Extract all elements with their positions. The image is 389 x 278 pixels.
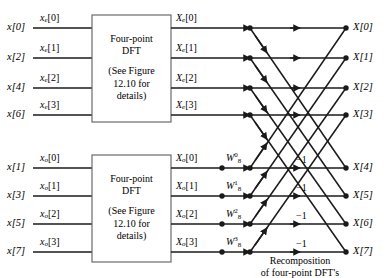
output-label-X2: X[2] (353, 82, 373, 93)
twiddle-label-0: W08 (226, 152, 241, 165)
recomposition-caption: Recomposition of four-point DFT's (234, 255, 366, 278)
output-label-X6: X[6] (353, 218, 373, 229)
odd-seq-label-1: xo[1] (40, 181, 60, 192)
even-dft-output-label-3: Xe[3] (176, 100, 197, 111)
twiddle-label-2: W28 (226, 208, 241, 221)
even-seq-label-1: xe[1] (40, 43, 59, 54)
output-label-X5: X[5] (353, 190, 373, 201)
even-dft-output-label-2: Xe[2] (176, 73, 197, 84)
odd-seq-label-0: xo[0] (40, 153, 60, 164)
twiddle-nodes (219, 165, 224, 254)
box-odd-line2: DFT (92, 185, 171, 197)
odd-dft-output-label-3: Xo[3] (176, 237, 197, 248)
even-dft-output-label-1: Xe[1] (176, 43, 197, 54)
box-even-line4: 12.10 for (92, 78, 171, 90)
box-even-line5: details) (92, 90, 171, 102)
odd-dft-output-label-0: Xo[0] (176, 153, 197, 164)
input-label-x7: x[7] (7, 246, 25, 257)
box-odd-line1: Four-point (92, 173, 171, 185)
input-label-x3: x[3] (7, 190, 25, 201)
odd-seq-label-3: xo[3] (40, 237, 60, 248)
even-dft-output-label-0: Xe[0] (176, 13, 197, 24)
output-label-X1: X[1] (353, 52, 373, 63)
odd-dft-output-label-2: Xo[2] (176, 209, 197, 220)
input-label-x0: x[0] (7, 22, 25, 33)
box-odd-line4: 12.10 for (92, 218, 171, 230)
twiddle-label-3: W38 (226, 236, 241, 249)
caption-line1: Recomposition (234, 255, 366, 267)
even-seq-label-0: xe[0] (40, 13, 59, 24)
minus-one-label-2: −1 (296, 211, 307, 221)
box-even-line3: (See Figure (92, 65, 171, 77)
output-label-X4: X[4] (353, 162, 373, 173)
input-label-x1: x[1] (7, 162, 25, 173)
input-label-x6: x[6] (7, 109, 25, 120)
odd-dft-output-label-1: Xo[1] (176, 181, 197, 192)
output-label-X0: X[0] (353, 22, 373, 33)
minus-one-label-0: −1 (296, 155, 307, 165)
input-label-x4: x[4] (7, 82, 25, 93)
odd-cross-arrowheads (255, 143, 267, 245)
dft-box-even-text: Four-point DFT (See Figure 12.10 for det… (92, 33, 171, 102)
odd-seq-label-2: xo[2] (40, 209, 60, 220)
fft-flow-graph-figure: x[0] x[2] x[4] x[6] x[1] x[3] x[5] x[7] … (0, 0, 389, 278)
minus-one-label-3: −1 (296, 239, 307, 249)
minus-one-label-1: −1 (296, 183, 307, 193)
input-label-x2: x[2] (7, 52, 25, 63)
caption-line2: of four-point DFT's (234, 267, 366, 278)
dft-box-odd-text: Four-point DFT (See Figure 12.10 for det… (92, 173, 171, 242)
output-label-X3: X[3] (353, 109, 373, 120)
box-even-line2: DFT (92, 45, 171, 57)
even-seq-label-2: xe[2] (40, 73, 59, 84)
twiddle-label-1: W18 (226, 180, 241, 193)
input-label-x5: x[5] (7, 218, 25, 229)
even-seq-label-3: xe[3] (40, 100, 59, 111)
box-odd-line5: details) (92, 230, 171, 242)
box-even-line1: Four-point (92, 33, 171, 45)
box-odd-line3: (See Figure (92, 205, 171, 217)
